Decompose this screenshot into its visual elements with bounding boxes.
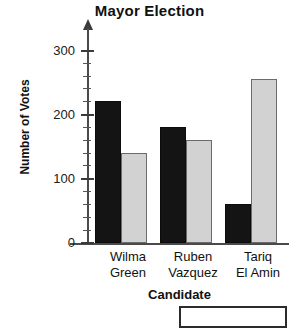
x-axis-title: Candidate <box>70 287 289 302</box>
x-category-label-line2: Vazquez <box>157 265 229 281</box>
x-category-label-line1: Tariq <box>244 249 272 264</box>
bar-wilma-green-series-2 <box>121 153 147 243</box>
y-axis-title: Number of Votes <box>18 72 32 182</box>
y-tick-label-200: 200 <box>33 107 75 122</box>
x-category-label-line1: Ruben <box>174 249 212 264</box>
x-category-label-line1: Wilma <box>110 249 146 264</box>
bar-tariq-el-amin-series-2 <box>251 79 277 243</box>
y-tick-label-100: 100 <box>33 171 75 186</box>
bar-ruben-vazquez-series-1 <box>160 127 186 243</box>
y-tick-label-0: 0 <box>33 235 75 250</box>
bar-tariq-el-amin-series-1 <box>225 204 251 243</box>
x-category-label-line2: Green <box>92 265 164 281</box>
x-category-label-line2: El Amin <box>222 265 294 281</box>
legend-box <box>179 306 287 328</box>
bar-ruben-vazquez-series-2 <box>186 140 212 243</box>
chart-title: Mayor Election <box>0 2 299 19</box>
y-tick-label-300: 300 <box>33 43 75 58</box>
plot-area <box>88 44 288 243</box>
bar-wilma-green-series-1 <box>95 101 121 243</box>
x-category-label-ruben-vazquez: Ruben Vazquez <box>157 249 229 281</box>
x-axis-line <box>70 243 289 245</box>
x-category-label-wilma-green: Wilma Green <box>92 249 164 281</box>
x-category-label-tariq-el-amin: Tariq El Amin <box>222 249 294 281</box>
